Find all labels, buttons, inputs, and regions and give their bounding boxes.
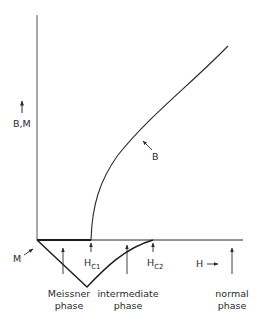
phase-diagram: B,M B M HC1 HC2 H Meissnerphase intermed… <box>0 0 261 329</box>
b-pointer-arrow-icon <box>143 141 152 150</box>
hc2-label: HC2 <box>147 257 164 271</box>
m-pointer-arrow-icon <box>24 249 33 255</box>
intermediate-phase-label: intermediatephase <box>97 288 158 311</box>
x-axis-label: H <box>196 258 203 269</box>
y-axis-label: B,M <box>13 118 31 129</box>
b-curve-label: B <box>152 151 159 162</box>
hc1-label: HC1 <box>84 257 101 271</box>
b-curve <box>91 46 228 240</box>
normal-phase-label: normalphase <box>215 288 248 311</box>
m-curve-label: M <box>13 253 21 264</box>
meissner-phase-label: Meissnerphase <box>48 288 90 311</box>
